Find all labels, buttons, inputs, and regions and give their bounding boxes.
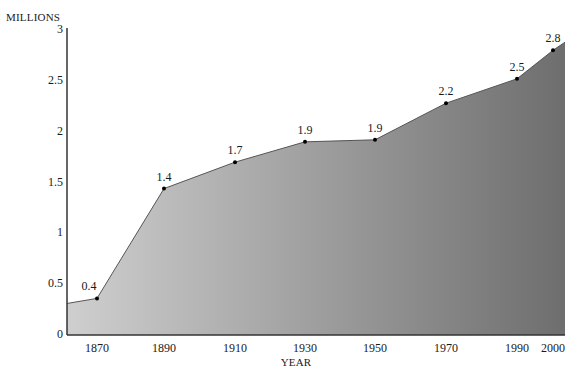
data-value-label: 2.8 bbox=[546, 31, 561, 46]
data-value-label: 2.2 bbox=[439, 84, 454, 99]
chart-canvas bbox=[0, 0, 582, 380]
y-tick-label: 2.5 bbox=[33, 73, 63, 88]
x-tick-label: 1990 bbox=[505, 341, 529, 356]
x-tick-label: 1930 bbox=[293, 341, 317, 356]
y-tick-label: 1.5 bbox=[33, 175, 63, 190]
y-tick-label: 0 bbox=[33, 327, 63, 342]
data-point-marker bbox=[444, 101, 448, 105]
x-tick-label: 1950 bbox=[363, 341, 387, 356]
y-tick-label: 1 bbox=[33, 225, 63, 240]
data-point-marker bbox=[515, 77, 519, 81]
x-tick-label: 2000 bbox=[541, 341, 565, 356]
data-point-marker bbox=[551, 48, 555, 52]
data-value-label: 1.9 bbox=[298, 123, 313, 138]
y-tick-label: 2 bbox=[33, 124, 63, 139]
x-tick-label: 1890 bbox=[152, 341, 176, 356]
data-value-label: 2.5 bbox=[510, 60, 525, 75]
data-value-label: 1.9 bbox=[368, 121, 383, 136]
data-value-label: 0.4 bbox=[82, 279, 97, 294]
data-point-marker bbox=[303, 140, 307, 144]
data-point-marker bbox=[95, 296, 99, 300]
x-tick-label: 1910 bbox=[223, 341, 247, 356]
data-value-label: 1.4 bbox=[157, 170, 172, 185]
data-value-label: 1.7 bbox=[228, 143, 243, 158]
data-point-marker bbox=[162, 187, 166, 191]
y-tick-label: 0.5 bbox=[33, 276, 63, 291]
area-fill bbox=[67, 42, 565, 335]
data-point-marker bbox=[373, 138, 377, 142]
data-point-marker bbox=[233, 160, 237, 164]
x-tick-label: 1970 bbox=[434, 341, 458, 356]
y-tick-label: 3 bbox=[33, 22, 63, 37]
x-axis-title: YEAR bbox=[281, 356, 312, 368]
x-tick-label: 1870 bbox=[85, 341, 109, 356]
